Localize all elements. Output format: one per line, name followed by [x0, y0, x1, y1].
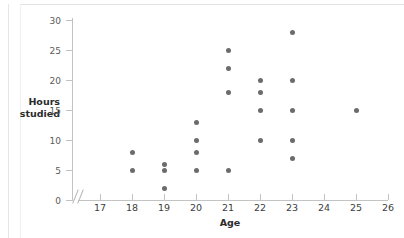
data-point	[194, 168, 199, 173]
y-axis-tick: 5	[66, 170, 72, 171]
page-border-left-inner	[20, 4, 21, 238]
y-axis-tick-label: 5	[55, 166, 61, 175]
y-axis-tick: 0	[66, 200, 72, 201]
x-axis-tick	[196, 194, 197, 200]
data-point	[162, 168, 167, 173]
x-axis-tick	[260, 194, 261, 200]
x-axis-tick	[132, 194, 133, 200]
data-point	[290, 30, 295, 35]
x-axis-tick-label: 18	[126, 203, 138, 213]
data-point	[226, 168, 231, 173]
data-point	[162, 186, 167, 191]
y-axis-tick-label: 15	[50, 106, 61, 115]
data-point	[258, 90, 263, 95]
y-axis-tick-label: 10	[50, 136, 61, 145]
y-axis-tick: 10	[66, 140, 72, 141]
x-axis-tick	[228, 194, 229, 200]
x-axis-tick-label: 23	[286, 203, 298, 213]
x-axis-break-icon	[70, 188, 88, 206]
data-point	[290, 156, 295, 161]
x-axis-tick-label: 24	[318, 203, 330, 213]
y-axis-tick: 25	[66, 50, 72, 51]
data-point	[194, 138, 199, 143]
y-axis-tick-label: 0	[55, 196, 61, 205]
data-point	[130, 150, 135, 155]
data-point	[258, 108, 263, 113]
x-axis-title: Age	[0, 217, 404, 228]
y-axis-tick-label: 25	[50, 46, 61, 55]
data-point	[258, 78, 263, 83]
data-point	[290, 138, 295, 143]
data-point	[226, 66, 231, 71]
data-point	[258, 138, 263, 143]
data-point	[290, 108, 295, 113]
data-point	[354, 108, 359, 113]
y-axis-tick-label: 30	[50, 16, 61, 25]
x-axis-tick-label: 19	[158, 203, 170, 213]
data-point	[194, 150, 199, 155]
x-axis-title-text: Age	[220, 217, 241, 228]
y-axis-tick: 30	[66, 20, 72, 21]
x-axis-tick	[292, 194, 293, 200]
y-axis-tick-label: 20	[50, 76, 61, 85]
data-point	[130, 168, 135, 173]
x-axis-tick	[388, 194, 389, 200]
y-axis-line	[72, 18, 73, 201]
data-point	[226, 48, 231, 53]
data-point	[162, 162, 167, 167]
x-axis-tick-label: 22	[254, 203, 266, 213]
page-border-left-outer	[8, 4, 9, 238]
x-axis-line	[78, 200, 388, 201]
x-axis-tick-label: 20	[190, 203, 202, 213]
x-axis-tick-label: 17	[94, 203, 106, 213]
page-border-top	[20, 4, 404, 5]
data-point	[194, 120, 199, 125]
y-axis-tick: 20	[66, 80, 72, 81]
x-axis-tick-label: 25	[350, 203, 362, 213]
scatter-plot-figure: Hours studied Age 051015202530 171819202…	[0, 0, 404, 238]
x-axis-tick	[164, 194, 165, 200]
data-point	[290, 78, 295, 83]
x-axis-tick	[100, 194, 101, 200]
y-axis-tick: 15	[66, 110, 72, 111]
x-axis-tick-label: 26	[382, 203, 394, 213]
x-axis-tick-label: 21	[222, 203, 234, 213]
x-axis-tick	[356, 194, 357, 200]
x-axis-tick	[324, 194, 325, 200]
data-point	[226, 90, 231, 95]
